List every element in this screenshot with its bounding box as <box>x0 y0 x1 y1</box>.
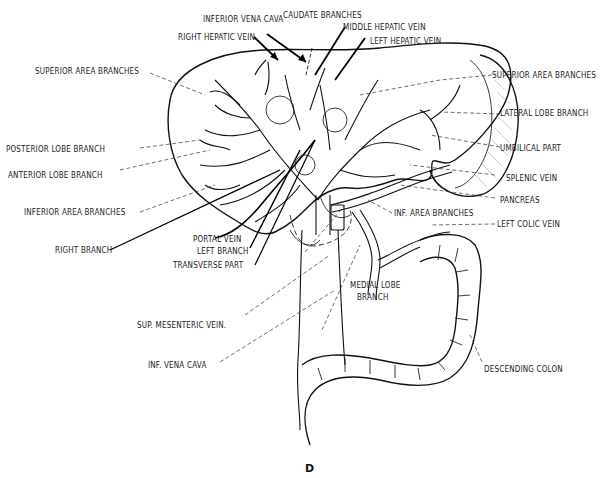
label-caudate-branches: CAUDATE BRANCHES <box>283 10 362 20</box>
label-right-hepatic-vein: RIGHT HEPATIC VEIN <box>178 32 255 42</box>
label-middle-hepatic-vein: MIDDLE HEPATIC VEIN <box>343 22 426 32</box>
label-superior-area-branches-left-lobe: SUPERIOR AREA BRANCHES <box>492 70 596 80</box>
label-splenic-vein: SPLENIC VEIN <box>506 173 557 183</box>
panel-label: D <box>305 462 314 475</box>
label-umbilical-part: UMBILICAL PART <box>500 143 561 153</box>
label-medial-lobe-branch-line2: BRANCH <box>357 292 388 302</box>
descending-colon <box>302 235 481 445</box>
anatomy-diagram: INFERIOR VENA CAVA CAUDATE BRANCHES MIDD… <box>0 0 607 478</box>
label-medial-lobe-branch-line1: MEDIAL LOBE <box>350 280 401 290</box>
label-inferior-vena-cava: INFERIOR VENA CAVA <box>203 14 283 24</box>
label-right-branch: RIGHT BRANCH <box>55 245 112 255</box>
label-transverse-part: TRANSVERSE PART <box>173 260 243 270</box>
label-inf-vena-cava: INF. VENA CAVA <box>148 360 207 370</box>
label-left-hepatic-vein: LEFT HEPATIC VEIN <box>370 36 441 46</box>
label-lateral-lobe-branch: LATERAL LOBE BRANCH <box>500 108 588 118</box>
label-sup-mesenteric-vein: SUP. MESENTERIC VEIN. <box>137 320 226 330</box>
label-descending-colon: DESCENDING COLON <box>484 364 563 374</box>
label-inf-area-branches: INF. AREA BRANCHES <box>394 208 474 218</box>
label-pancreas: PANCREAS <box>500 195 540 205</box>
label-anterior-lobe-branch: ANTERIOR LOBE BRANCH <box>8 170 103 180</box>
label-left-branch: LEFT BRANCH <box>197 246 249 256</box>
hepatic-vein-arrows <box>254 27 365 80</box>
label-inferior-area-branches: INFERIOR AREA BRANCHES <box>24 207 125 217</box>
inferior-vena-cava <box>297 195 345 430</box>
label-superior-area-branches-right-lobe: SUPERIOR AREA BRANCHES <box>35 66 139 76</box>
label-portal-vein: PORTAL VEIN <box>193 234 242 244</box>
label-posterior-lobe-branch: POSTERIOR LOBE BRANCH <box>6 144 105 154</box>
label-left-colic-vein: LEFT COLIC VEIN <box>497 219 560 229</box>
